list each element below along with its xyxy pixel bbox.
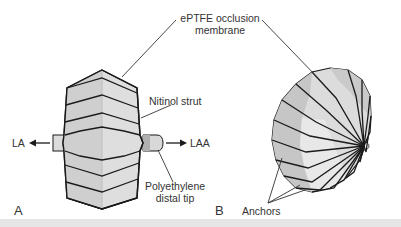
tip-leader	[158, 150, 173, 182]
tip-label-line1: Polyethylene	[142, 180, 208, 192]
membrane-leader-a	[122, 20, 176, 77]
membrane-label: ePTFE occlusion membrane	[178, 12, 262, 36]
membrane-label-line1: ePTFE occlusion	[178, 12, 262, 24]
membrane-label-line2: membrane	[178, 24, 262, 36]
nitinol-strut-label: Nitinol strut	[149, 95, 202, 107]
footer-bar	[0, 219, 401, 227]
polyethylene-tip-label: Polyethylene distal tip	[142, 180, 208, 204]
laa-arrow-icon	[166, 140, 187, 147]
panel-b-letter: B	[215, 203, 224, 218]
la-label: LA	[12, 137, 25, 149]
diagram-figure: ePTFE occlusion membrane Nitinol strut P…	[0, 0, 401, 227]
membrane-leader-b	[262, 20, 318, 78]
tip-label-line2: distal tip	[142, 192, 208, 204]
anchors-label: Anchors	[242, 205, 281, 217]
panel-a-letter: A	[14, 203, 23, 218]
device-oblique-view	[272, 68, 371, 192]
la-arrow-icon	[29, 140, 50, 147]
anchors-leader-3	[268, 190, 305, 203]
laa-label: LAA	[190, 137, 210, 149]
